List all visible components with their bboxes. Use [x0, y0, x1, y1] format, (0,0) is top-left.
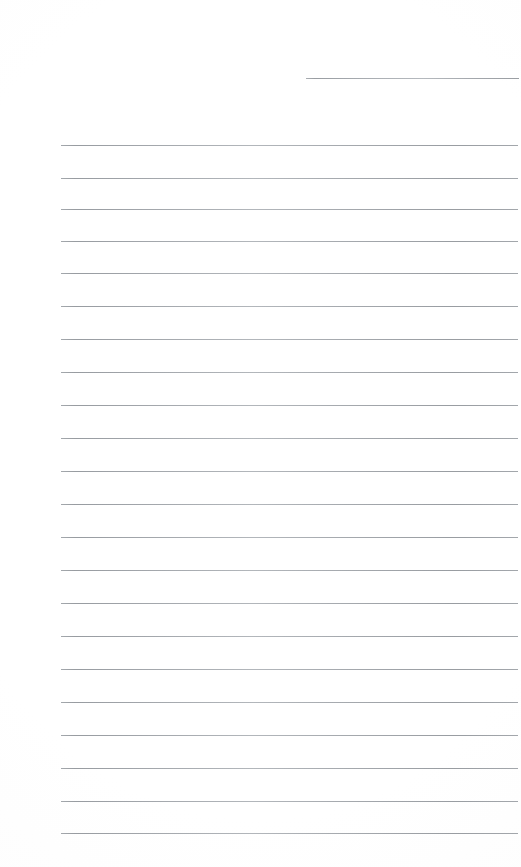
rule-line	[61, 438, 518, 439]
rule-line	[61, 537, 518, 538]
rule-line	[61, 241, 518, 242]
rule-line	[61, 603, 518, 604]
rule-line	[61, 570, 518, 571]
rule-line	[61, 636, 518, 637]
rule-line	[61, 145, 518, 146]
rule-line	[61, 372, 518, 373]
rule-line	[61, 801, 518, 802]
rule-line	[61, 669, 518, 670]
rule-line	[61, 339, 518, 340]
rule-line	[61, 209, 518, 210]
rule-line	[61, 702, 518, 703]
rule-line	[61, 306, 518, 307]
rule-line	[61, 273, 518, 274]
rule-line	[61, 471, 518, 472]
rule-lines-group	[0, 0, 521, 867]
rule-line	[61, 735, 518, 736]
rule-line	[61, 504, 518, 505]
rule-line	[61, 833, 518, 834]
notepaper-page: Blank Ruled Notepaper	[0, 0, 521, 867]
rule-line	[61, 405, 518, 406]
rule-line	[306, 78, 519, 79]
rule-line	[61, 178, 518, 179]
rule-line	[61, 768, 518, 769]
